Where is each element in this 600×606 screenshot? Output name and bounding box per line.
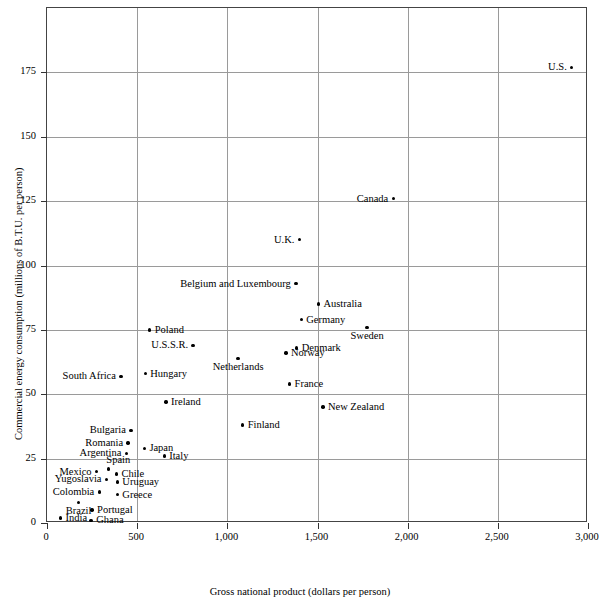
x-axis-tick: [588, 523, 589, 529]
data-point: [107, 467, 110, 470]
data-point-label: Netherlands: [213, 362, 264, 373]
data-point: [300, 318, 303, 321]
x-axis-tick-label: 0: [24, 531, 68, 542]
data-point: [163, 454, 166, 457]
x-axis-tick: [408, 523, 409, 529]
data-point-label: Bulgaria: [90, 425, 126, 436]
x-axis-tick-label: 1,000: [204, 531, 248, 542]
data-point: [59, 516, 62, 519]
data-point-label: Spain: [106, 455, 130, 466]
x-axis-tick-label: 2,000: [385, 531, 429, 542]
data-point: [294, 282, 297, 285]
y-axis-tick: [41, 72, 47, 73]
x-axis-tick: [227, 523, 228, 529]
data-point-label: Greece: [122, 489, 152, 500]
gridline-horizontal: [47, 201, 586, 202]
x-axis-title: Gross national product (dollars per pers…: [0, 586, 600, 597]
data-point-label: New Zealand: [328, 402, 384, 413]
data-point: [116, 493, 119, 496]
gridline-vertical: [318, 8, 319, 521]
data-point: [144, 372, 147, 375]
data-point-label: Poland: [155, 325, 184, 336]
gridline-horizontal: [47, 72, 586, 73]
data-point-label: South Africa: [63, 371, 116, 382]
data-point: [321, 405, 324, 408]
data-point-label: France: [295, 379, 324, 390]
x-axis-tick-label: 500: [114, 531, 158, 542]
data-point: [90, 508, 93, 511]
x-axis-tick: [318, 523, 319, 529]
x-axis-tick-label: 2,500: [475, 531, 519, 542]
data-point: [317, 302, 320, 305]
gridline-horizontal: [47, 394, 586, 395]
data-point-label: Canada: [357, 193, 389, 204]
data-point-label: Australia: [323, 299, 362, 310]
gridline-horizontal: [47, 266, 586, 267]
data-point: [143, 447, 146, 450]
data-point-label: Ireland: [171, 397, 201, 408]
y-axis-tick: [41, 394, 47, 395]
data-point: [392, 197, 395, 200]
y-axis-tick: [41, 137, 47, 138]
data-point-label: Italy: [169, 451, 188, 462]
data-point: [98, 490, 101, 493]
data-point: [365, 326, 368, 329]
y-axis-tick-label: 0: [2, 516, 36, 527]
x-axis-tick-label: 1,500: [295, 531, 339, 542]
x-axis-tick: [137, 523, 138, 529]
data-point-label: Norway: [291, 348, 325, 359]
data-point-label: Finland: [248, 420, 280, 431]
data-point: [164, 400, 167, 403]
data-point: [129, 429, 132, 432]
data-point-label: U.S.S.R.: [151, 340, 188, 351]
gridline-horizontal: [47, 330, 586, 331]
data-point: [105, 478, 108, 481]
data-point: [148, 328, 151, 331]
data-point: [77, 501, 80, 504]
data-point: [89, 519, 92, 522]
y-axis-tick: [41, 201, 47, 202]
gridline-vertical: [408, 8, 409, 521]
data-point-label: Colombia: [53, 487, 94, 498]
y-axis-tick: [41, 459, 47, 460]
data-point: [288, 382, 291, 385]
y-axis-tick-label: 150: [2, 130, 36, 141]
data-point: [116, 480, 119, 483]
data-point: [298, 238, 301, 241]
y-axis-tick-label: 175: [2, 65, 36, 76]
y-axis-title: Commercial energy consumption (millions …: [13, 167, 24, 440]
data-point-label: Germany: [306, 314, 345, 325]
data-point: [284, 351, 287, 354]
data-point-label: Sweden: [350, 331, 383, 342]
data-point: [119, 375, 122, 378]
scatter-chart: U.S.CanadaU.K.Belgium and LuxembourgAust…: [0, 0, 600, 606]
data-point: [191, 344, 194, 347]
gridline-vertical: [498, 8, 499, 521]
data-point-label: U.S.: [548, 62, 567, 73]
data-point-label: Ghana: [96, 515, 123, 526]
data-point-label: India: [66, 513, 88, 524]
gridline-horizontal: [47, 137, 586, 138]
data-point-label: U.K.: [274, 235, 294, 246]
data-point-label: Hungary: [150, 368, 187, 379]
data-point: [241, 423, 244, 426]
y-axis-tick-label: 25: [2, 452, 36, 463]
data-point: [570, 66, 573, 69]
gridline-vertical: [137, 8, 138, 521]
y-axis-tick: [41, 330, 47, 331]
data-point-label: Uruguay: [122, 477, 159, 488]
data-point-label: Yugoslavia: [55, 474, 102, 485]
x-axis-tick: [47, 523, 48, 529]
gridline-vertical: [227, 8, 228, 521]
y-axis-tick: [41, 266, 47, 267]
data-point: [126, 441, 129, 444]
data-point-label: Belgium and Luxembourg: [180, 278, 291, 289]
x-axis-tick-label: 3,000: [565, 531, 600, 542]
data-point: [115, 472, 118, 475]
x-axis-tick: [498, 523, 499, 529]
data-point: [236, 357, 239, 360]
plot-area: U.S.CanadaU.K.Belgium and LuxembourgAust…: [46, 7, 587, 522]
